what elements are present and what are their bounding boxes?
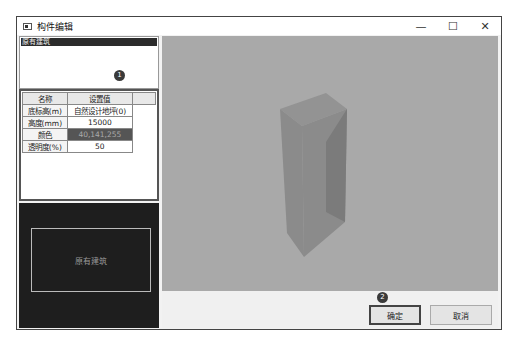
- maximize-button[interactable]: ☐: [437, 17, 469, 35]
- property-name: 透明度(%): [23, 141, 68, 153]
- tree-item-existing-building[interactable]: 原有建筑: [21, 38, 157, 46]
- app-icon: [23, 23, 32, 30]
- title-bar[interactable]: 构件编辑 — ☐ ✕: [17, 17, 501, 35]
- component-edit-dialog: 构件编辑 — ☐ ✕ 原有建筑 1 名称 设置值 底标高(m) 自然设计地坪(0…: [16, 16, 502, 330]
- column-header-blank: [133, 93, 156, 105]
- property-panel: 名称 设置值 底标高(m) 自然设计地坪(0) 高度(mm) 15000 颜色 …: [19, 89, 159, 201]
- table-row: 底标高(m) 自然设计地坪(0): [23, 105, 156, 117]
- cancel-button[interactable]: 取消: [430, 305, 492, 325]
- window-controls: — ☐ ✕: [405, 17, 501, 35]
- callout-badge-1: 1: [114, 70, 125, 81]
- base-elevation-value[interactable]: 自然设计地坪(0): [67, 105, 132, 117]
- preview-label-box: 原有建筑: [31, 228, 151, 292]
- minimize-button[interactable]: —: [405, 17, 437, 35]
- table-row: 颜色 40,141,255: [23, 129, 156, 141]
- component-tree: 原有建筑 1: [19, 36, 159, 89]
- 3d-viewport[interactable]: [162, 36, 498, 291]
- table-row: 高度(mm) 15000: [23, 117, 156, 129]
- table-row: 透明度(%) 50: [23, 141, 156, 153]
- left-pane: 原有建筑 1 名称 设置值 底标高(m) 自然设计地坪(0) 高度(mm) 15…: [19, 36, 159, 328]
- box-front-face: [280, 109, 304, 257]
- preview-label: 原有建筑: [75, 255, 107, 266]
- column-header-value: 设置值: [67, 93, 132, 105]
- column-header-name: 名称: [23, 93, 68, 105]
- height-value[interactable]: 15000: [67, 117, 132, 129]
- property-table: 名称 设置值 底标高(m) 自然设计地坪(0) 高度(mm) 15000 颜色 …: [22, 92, 156, 153]
- close-button[interactable]: ✕: [469, 17, 501, 35]
- callout-badge-2: 2: [377, 292, 388, 303]
- transparency-value[interactable]: 50: [67, 141, 132, 153]
- preview-panel: 原有建筑: [19, 203, 159, 328]
- property-name: 底标高(m): [23, 105, 68, 117]
- color-value[interactable]: 40,141,255: [67, 129, 132, 141]
- 3d-box-model: [162, 36, 498, 291]
- property-name: 颜色: [23, 129, 68, 141]
- window-title: 构件编辑: [37, 20, 73, 33]
- table-header-row: 名称 设置值: [23, 93, 156, 105]
- property-name: 高度(mm): [23, 117, 68, 129]
- ok-button[interactable]: 确定: [369, 305, 421, 325]
- dialog-footer: 2 确定 取消: [162, 291, 498, 328]
